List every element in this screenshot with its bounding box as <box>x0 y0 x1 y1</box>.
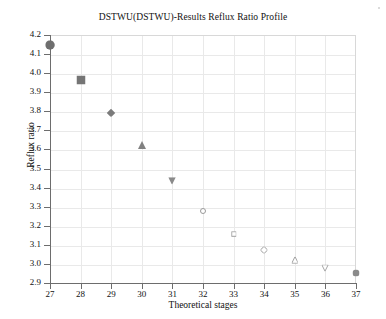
y-axis-tick-mark <box>44 111 50 112</box>
data-point-marker <box>138 141 146 149</box>
x-axis-tick-label: 34 <box>249 290 279 299</box>
data-point-marker <box>261 246 268 253</box>
data-point-marker <box>76 76 85 85</box>
chart-title: DSTWU(DSTWU)-Results Reflux Ratio Profil… <box>0 12 386 22</box>
y-axis-line <box>50 35 51 284</box>
y-axis-tick-mark <box>44 149 50 150</box>
y-axis-tick-label: 3.5 <box>1 164 41 173</box>
chart-figure: DSTWU(DSTWU)-Results Reflux Ratio Profil… <box>0 0 386 319</box>
x-axis-tick-label: 28 <box>66 290 96 299</box>
y-axis-tick-label: 3.9 <box>1 87 41 96</box>
data-point-marker <box>107 108 116 117</box>
data-point-marker <box>292 257 299 264</box>
y-axis-tick-label: 3.7 <box>1 125 41 134</box>
y-axis-tick-label: 3.4 <box>1 183 41 192</box>
x-axis-tick-label: 37 <box>341 290 371 299</box>
x-axis-label: Theoretical stages <box>50 300 356 310</box>
x-axis-tick-label: 27 <box>35 290 65 299</box>
corner-dot-artifact <box>378 7 380 9</box>
data-point-marker <box>45 41 55 51</box>
y-axis-tick-label: 3.0 <box>1 259 41 268</box>
y-axis-tick-mark <box>44 226 50 227</box>
data-point-marker <box>231 231 237 237</box>
y-axis-tick-mark <box>44 264 50 265</box>
y-axis-tick-mark <box>44 245 50 246</box>
y-axis-tick-label: 4.1 <box>1 49 41 58</box>
x-axis-tick-label: 30 <box>127 290 157 299</box>
gridline-vertical <box>234 36 235 283</box>
x-axis-tick-label: 32 <box>188 290 218 299</box>
y-axis-tick-mark <box>44 73 50 74</box>
y-axis-tick-mark <box>44 54 50 55</box>
y-axis-tick-label: 2.9 <box>1 278 41 287</box>
y-axis-tick-mark <box>44 35 50 36</box>
y-axis-tick-label: 3.6 <box>1 144 41 153</box>
gridline-vertical <box>111 36 112 283</box>
data-point-marker <box>169 177 177 185</box>
gridline-vertical <box>81 36 82 283</box>
data-point-marker <box>353 270 360 277</box>
y-axis-tick-mark <box>44 92 50 93</box>
data-point-marker <box>322 265 328 271</box>
gridline-vertical <box>295 36 296 283</box>
gridline-vertical <box>203 36 204 283</box>
x-axis-tick-label: 35 <box>280 290 310 299</box>
data-point-marker <box>200 208 206 214</box>
plot-area <box>50 35 356 283</box>
y-axis-tick-label: 4.0 <box>1 68 41 77</box>
x-axis-tick-label: 31 <box>157 290 187 299</box>
x-axis-tick-label: 29 <box>96 290 126 299</box>
y-axis-tick-mark <box>44 130 50 131</box>
y-axis-tick-label: 3.1 <box>1 240 41 249</box>
x-axis-tick-label: 33 <box>219 290 249 299</box>
y-axis-tick-label: 4.2 <box>1 30 41 39</box>
y-axis-tick-label: 3.8 <box>1 106 41 115</box>
y-axis-tick-mark <box>44 207 50 208</box>
y-axis-tick-mark <box>44 169 50 170</box>
y-axis-tick-label: 3.3 <box>1 202 41 211</box>
y-axis-tick-mark <box>44 188 50 189</box>
gridline-vertical <box>325 36 326 283</box>
x-axis-tick-label: 36 <box>310 290 340 299</box>
y-axis-tick-label: 3.2 <box>1 221 41 230</box>
gridline-vertical <box>142 36 143 283</box>
gridline-vertical <box>172 36 173 283</box>
